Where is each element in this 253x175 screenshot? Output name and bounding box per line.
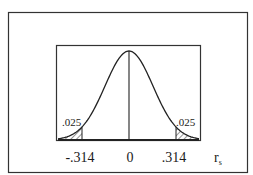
tick-label-pos: .314 [162,150,187,165]
tail-label-left: .025 [62,116,82,128]
axis-label: rs [214,150,222,167]
tail-label-right: .025 [176,116,196,128]
tick-label-zero: 0 [127,150,134,165]
outer-frame [9,13,248,173]
tick-label-neg: -.314 [65,150,94,165]
diagram-canvas: .025 .025 -.314 0 .314 rs [0,0,253,175]
